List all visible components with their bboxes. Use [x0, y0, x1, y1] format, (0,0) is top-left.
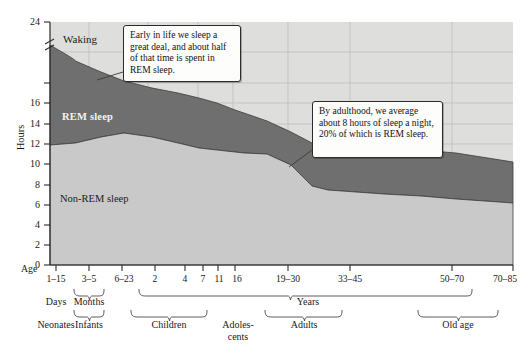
xtick-4: 4 — [183, 273, 188, 284]
xtick-50-70: 50–70 — [440, 273, 464, 284]
x-axis-tick-labels: 1–15 3–5 6–23 2 4 7 11 16 19–30 33–45 50… — [46, 273, 517, 284]
unit-labels: Days Months Years — [46, 296, 320, 307]
unit-brackets — [74, 289, 472, 300]
group-infants: Infants — [75, 319, 103, 330]
group-adolescents-line2: cents — [228, 331, 249, 342]
group-labels: Neonates Infants Children Adoles- cents … — [37, 319, 474, 342]
x-axis-ticks — [56, 265, 513, 271]
group-children: Children — [152, 319, 187, 330]
xtick-33-45: 33–45 — [338, 273, 362, 284]
ytick-14: 14 — [30, 118, 40, 129]
group-adolescents-line1: Adoles- — [222, 319, 254, 330]
xtick-7: 7 — [201, 273, 206, 284]
ytick-8: 8 — [35, 179, 40, 190]
y-axis-tick-labels: 0 2 4 6 8 10 12 14 16 24 — [30, 16, 40, 270]
group-adults: Adults — [291, 319, 318, 330]
group-old-age: Old age — [442, 319, 474, 330]
early-life-callout: Early in life we sleep a great deal, and… — [123, 25, 241, 82]
xtick-2: 2 — [153, 273, 158, 284]
ytick-24: 24 — [30, 16, 40, 27]
ytick-10: 10 — [30, 158, 40, 169]
y-axis-ticks — [44, 22, 50, 265]
xtick-70-85: 70–85 — [493, 273, 517, 284]
group-brackets — [74, 310, 498, 321]
adulthood-callout: By adulthood, we average about 8 hours o… — [312, 101, 443, 158]
ytick-4: 4 — [35, 219, 40, 230]
y-axis-title: Hours — [15, 108, 26, 168]
x-axis-title: Age — [21, 263, 37, 274]
unit-days: Days — [46, 296, 67, 307]
xtick-16: 16 — [232, 273, 242, 284]
unit-years: Years — [297, 296, 319, 307]
xtick-3-5: 3–5 — [82, 273, 97, 284]
xtick-6-23: 6–23 — [114, 273, 133, 284]
unit-months: Months — [74, 296, 105, 307]
ytick-2: 2 — [35, 239, 40, 250]
group-neonates: Neonates — [37, 319, 74, 330]
xtick-1-15: 1–15 — [46, 273, 65, 284]
ytick-12: 12 — [30, 138, 40, 149]
chart-canvas: 0 2 4 6 8 10 12 14 16 24 — [0, 0, 530, 353]
sleep-stages-chart-figure: 0 2 4 6 8 10 12 14 16 24 — [0, 0, 530, 353]
ytick-16: 16 — [30, 97, 40, 108]
xtick-11: 11 — [214, 273, 223, 284]
ytick-6: 6 — [35, 199, 40, 210]
xtick-19-30: 19–30 — [276, 273, 300, 284]
